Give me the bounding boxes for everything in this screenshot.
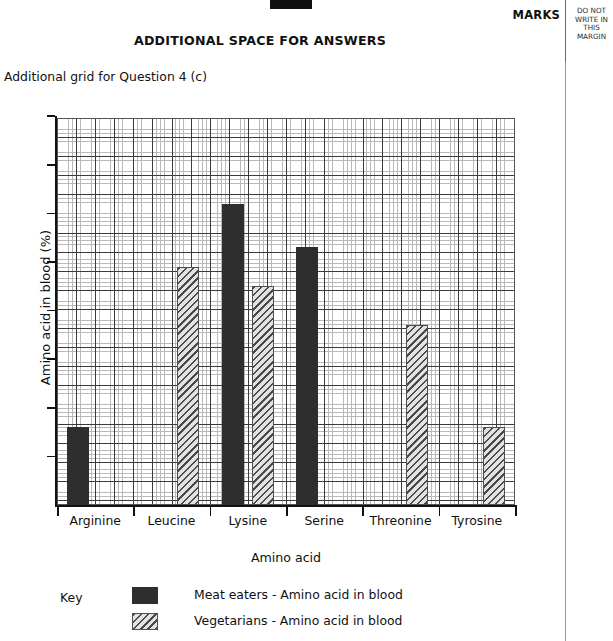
x-axis-tick	[210, 507, 212, 516]
bar	[252, 286, 274, 505]
x-axis-tick	[439, 507, 441, 516]
bar	[67, 427, 89, 505]
y-axis-tick	[47, 310, 55, 312]
key-label: Vegetarians - Amino acid in blood	[194, 613, 402, 628]
page-marker	[270, 0, 312, 9]
x-axis-tick	[362, 507, 364, 516]
x-axis-category-label: Arginine	[57, 513, 133, 528]
plot-border	[57, 118, 515, 505]
bar	[177, 267, 199, 505]
key-swatch-vegetarians	[132, 613, 158, 630]
x-axis-category-label: Tyrosine	[439, 513, 515, 528]
bar-chart: ArginineLeucineLysineSerineThreonineTyro…	[0, 0, 613, 641]
bar	[483, 427, 505, 505]
y-axis-tick	[47, 213, 55, 215]
bar	[296, 247, 318, 505]
key-swatch-meat-eaters	[132, 587, 158, 604]
y-axis-tick	[47, 358, 55, 360]
bar	[406, 325, 428, 505]
margin-divider	[565, 62, 566, 641]
key-label: Meat eaters - Amino acid in blood	[194, 587, 403, 602]
plot-area	[57, 118, 515, 505]
margin-note-line: MARGIN	[570, 33, 613, 42]
x-axis-label: Amino acid	[57, 550, 515, 565]
y-axis-tick	[47, 115, 55, 117]
x-axis-tick	[286, 507, 288, 516]
key-title: Key	[60, 590, 82, 605]
x-axis-category-label: Leucine	[133, 513, 209, 528]
x-axis-tick	[57, 507, 59, 516]
chart-key: Key Meat eaters - Amino acid in bloodVeg…	[60, 583, 520, 639]
y-axis-tick	[47, 456, 55, 458]
y-axis-label: Amino acid in blood (%)	[38, 193, 53, 423]
marks-label: MARKS	[508, 8, 560, 22]
margin-note: DO NOTWRITE INTHISMARGIN	[570, 7, 613, 41]
y-axis-tick	[47, 261, 55, 263]
x-axis-line	[55, 505, 517, 507]
x-axis-tick	[515, 507, 517, 516]
x-axis-category-label: Threonine	[362, 513, 438, 528]
x-axis-category-label: Serine	[286, 513, 362, 528]
x-axis-tick	[133, 507, 135, 516]
page-title: ADDITIONAL SPACE FOR ANSWERS	[0, 33, 520, 48]
page-subtitle: Additional grid for Question 4 (c)	[4, 69, 207, 84]
bar	[222, 204, 244, 505]
margin-divider-top	[565, 0, 566, 62]
y-axis-tick	[47, 164, 55, 166]
y-axis-tick	[47, 407, 55, 409]
x-axis-category-label: Lysine	[210, 513, 286, 528]
